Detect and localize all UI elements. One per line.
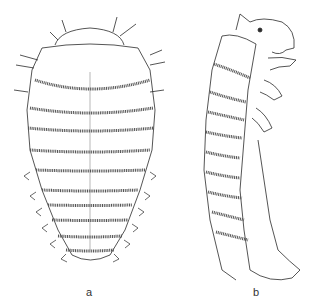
larva-illustration	[0, 0, 315, 308]
panel-b-lateral-view	[204, 14, 300, 280]
panel-label-b: b	[253, 286, 259, 298]
panel-label-a: a	[86, 286, 92, 298]
panel-a-dorsal-view	[14, 17, 165, 260]
larva-figure: a b	[0, 0, 315, 308]
panel-a-segment-bands	[28, 80, 154, 251]
